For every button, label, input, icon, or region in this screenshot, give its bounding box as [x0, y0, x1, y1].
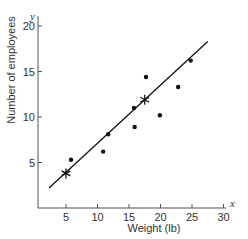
data-point [132, 106, 136, 110]
data-point [176, 85, 180, 89]
data-points [69, 58, 193, 162]
x-axis-variable: x [229, 197, 235, 209]
y-tick-label: 5 [29, 157, 35, 169]
data-point [69, 158, 73, 162]
y-axis-variable: y [29, 10, 35, 22]
data-point [144, 75, 148, 79]
x-tick-label: 25 [186, 211, 198, 223]
data-point [132, 125, 136, 129]
x-tick-label: 10 [91, 211, 103, 223]
x-tick-label: 5 [63, 211, 69, 223]
data-point [158, 113, 162, 117]
regression-line-segment [49, 41, 208, 188]
data-point [101, 149, 105, 153]
y-axis-title: Number of employees [5, 16, 17, 124]
data-point [189, 58, 193, 62]
axes: 510152025305101520 [23, 16, 230, 223]
x-axis-title: Weight (lb) [128, 222, 181, 234]
x-tick-label: 30 [217, 211, 229, 223]
y-tick-label: 15 [23, 66, 35, 78]
regression-line [49, 41, 208, 188]
y-tick-label: 10 [23, 111, 35, 123]
scatter-chart: 510152025305101520 Weight (lb) Number of… [0, 0, 248, 239]
data-point [106, 132, 110, 136]
